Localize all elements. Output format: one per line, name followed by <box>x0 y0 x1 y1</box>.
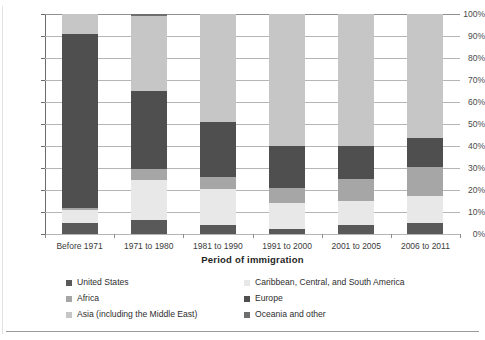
bar-segment[interactable] <box>200 225 236 234</box>
bar-segment[interactable] <box>131 14 167 16</box>
legend-item[interactable]: Caribbean, Central, and South America <box>244 278 426 287</box>
x-axis-tick-mark <box>391 234 392 238</box>
legend-label: Asia (including the Middle East) <box>77 310 197 319</box>
bar-segment[interactable] <box>62 210 98 223</box>
gridline <box>45 80 460 81</box>
legend-label: United States <box>77 278 129 287</box>
legend-swatch-icon <box>244 312 250 318</box>
bar-segment[interactable] <box>338 225 374 234</box>
bar-segment[interactable] <box>200 14 236 122</box>
legend-item[interactable]: United States <box>66 278 244 287</box>
chart-legend: United StatesCaribbean, Central, and Sou… <box>66 278 426 326</box>
bar-segment[interactable] <box>200 189 236 225</box>
legend-label: Caribbean, Central, and South America <box>255 278 405 287</box>
bar-segment[interactable] <box>200 177 236 189</box>
bar-segment[interactable] <box>62 223 98 234</box>
bar-column[interactable] <box>269 14 305 234</box>
legend-swatch-icon <box>66 296 72 302</box>
legend-label: Oceania and other <box>255 310 326 319</box>
legend-item[interactable]: Africa <box>66 294 244 303</box>
x-axis-tick-mark <box>114 234 115 238</box>
gridline <box>45 36 460 37</box>
x-axis-title: Period of immigration <box>45 254 460 265</box>
bar-segment[interactable] <box>62 14 98 34</box>
x-axis-tick-mark <box>322 234 323 238</box>
gridline <box>45 58 460 59</box>
bar-segment[interactable] <box>269 203 305 228</box>
legend-item[interactable]: Oceania and other <box>244 310 426 319</box>
gridline <box>45 190 460 191</box>
bar-segment[interactable] <box>338 14 374 146</box>
bar-column[interactable] <box>62 14 98 234</box>
legend-row: United StatesCaribbean, Central, and Sou… <box>66 278 426 287</box>
gridline <box>45 14 460 15</box>
bar-segment[interactable] <box>269 14 305 146</box>
bar-segment[interactable] <box>338 179 374 201</box>
figure-left-edge <box>2 6 3 334</box>
bar-segment[interactable] <box>131 169 167 180</box>
gridline <box>45 146 460 147</box>
gridline <box>45 212 460 213</box>
bar-segment[interactable] <box>131 180 167 220</box>
bar-segment[interactable] <box>407 14 443 138</box>
bar-segment[interactable] <box>62 34 98 208</box>
gridline <box>45 168 460 169</box>
bar-segment[interactable] <box>269 229 305 235</box>
plot-area <box>45 14 460 234</box>
footer-rule <box>6 331 479 332</box>
bar-segment[interactable] <box>200 122 236 177</box>
x-axis-tick-mark <box>45 234 46 238</box>
bar-column[interactable] <box>200 14 236 234</box>
bar-segment[interactable] <box>407 196 443 224</box>
legend-label: Africa <box>77 294 99 303</box>
bar-segment[interactable] <box>338 201 374 225</box>
bar-segment[interactable] <box>407 138 443 167</box>
legend-swatch-icon <box>244 280 250 286</box>
gridline <box>45 124 460 125</box>
legend-swatch-icon <box>66 280 72 286</box>
x-axis-tick-mark <box>253 234 254 238</box>
bar-segment[interactable] <box>269 188 305 203</box>
legend-label: Europe <box>255 294 283 303</box>
legend-item[interactable]: Europe <box>244 294 426 303</box>
x-axis-tick-label: 2006 to 2011 <box>382 241 468 251</box>
x-axis-tick-mark <box>460 234 461 238</box>
gridline <box>45 102 460 103</box>
legend-item[interactable]: Asia (including the Middle East) <box>66 310 244 319</box>
bar-segment[interactable] <box>131 16 167 91</box>
bar-segment[interactable] <box>338 146 374 179</box>
chart-figure: 0%10%20%30%40%50%60%70%80%90%100% Before… <box>0 0 485 340</box>
bar-column[interactable] <box>131 14 167 234</box>
bar-segment[interactable] <box>407 223 443 234</box>
legend-swatch-icon <box>244 296 250 302</box>
bar-segment[interactable] <box>131 91 167 169</box>
bar-column[interactable] <box>338 14 374 234</box>
legend-swatch-icon <box>66 312 72 318</box>
x-axis-tick-mark <box>183 234 184 238</box>
bar-segment[interactable] <box>407 167 443 196</box>
bar-segment[interactable] <box>62 208 98 210</box>
legend-row: Asia (including the Middle East)Oceania … <box>66 310 426 319</box>
bar-column[interactable] <box>407 14 443 234</box>
bar-segment[interactable] <box>131 220 167 234</box>
legend-row: AfricaEurope <box>66 294 426 303</box>
bar-segment[interactable] <box>269 146 305 188</box>
